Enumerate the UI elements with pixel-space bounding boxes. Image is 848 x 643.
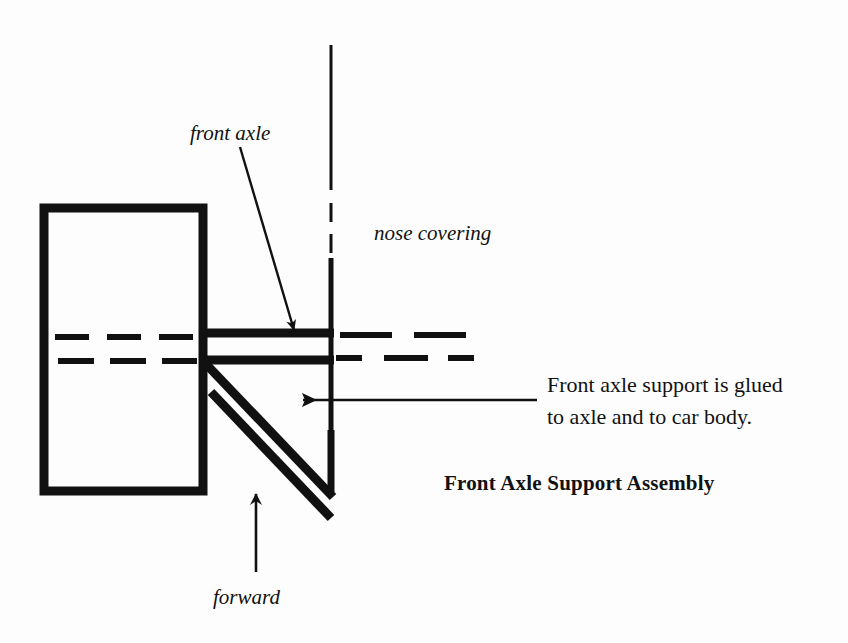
front-axle-support (205, 363, 333, 518)
assembly-title: Front Axle Support Assembly (444, 471, 715, 495)
car-body (44, 208, 203, 491)
assembly-diagram-canvas: front axle nose covering Front axle supp… (0, 0, 848, 643)
nose-covering-label: nose covering (374, 221, 491, 245)
assembly-diagram: front axle nose covering Front axle supp… (0, 0, 848, 643)
front-axle-leader (240, 147, 294, 330)
nose-covering-hidden-lines (336, 335, 478, 358)
axle-support-upper-edge (205, 363, 333, 497)
front-axle (200, 333, 334, 360)
axle-support-lower-edge (211, 392, 331, 518)
forward-label: forward (213, 585, 280, 609)
front-axle-label: front axle (190, 121, 270, 145)
glue-note-line-2: to axle and to car body. (547, 404, 752, 429)
front-axle-leader-arrow (240, 147, 294, 330)
glue-note-line-1: Front axle support is glued (547, 372, 783, 397)
car-body-outline (44, 208, 203, 491)
